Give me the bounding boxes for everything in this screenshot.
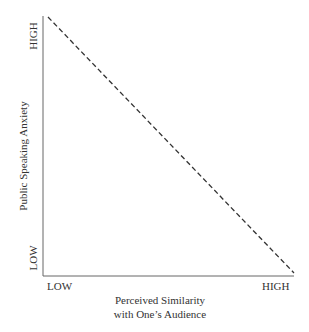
x-axis-title-line2: with One’s Audience: [60, 307, 260, 321]
trend-line-dashed: [48, 17, 294, 273]
x-tick-low: LOW: [47, 280, 72, 292]
y-tick-high: HIGH: [27, 21, 39, 51]
x-tick-high: HIGH: [262, 280, 290, 292]
x-axis-title: Perceived Similarity with One’s Audience: [60, 293, 260, 321]
y-axis-title: Public Speaking Anxiety: [17, 86, 29, 226]
y-tick-low: LOW: [27, 243, 39, 273]
x-axis-title-line1: Perceived Similarity: [60, 293, 260, 307]
